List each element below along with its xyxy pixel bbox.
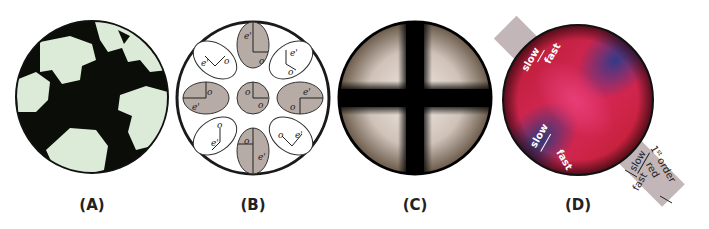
panel-label-c: (C): [385, 196, 445, 214]
panel-c-interference-figure: [335, 18, 495, 178]
label-o-sw: o: [217, 120, 223, 130]
label-e-sw: e': [211, 138, 219, 148]
label-o-east: o: [290, 102, 296, 112]
figure-canvas: e' o o e' o e' e' o o o e' o e' o o e' o…: [0, 0, 709, 229]
label-e-nw: e': [201, 58, 209, 68]
label-e-east: e': [303, 87, 311, 97]
panel-label-d: (D): [548, 196, 608, 214]
panel-a-micrograph: [10, 15, 180, 185]
label-e-west: e': [192, 102, 200, 112]
panel-b-schematic: e' o o e' o e' e' o o o e' o e' o o e' o…: [177, 22, 329, 174]
label-e-south: e': [258, 152, 266, 162]
panel-label-b: (B): [223, 196, 283, 214]
label-o-center-1: o: [245, 87, 251, 97]
label-e-se: e': [295, 130, 303, 140]
label-o-ne: o: [288, 67, 294, 77]
label-o-west: o: [207, 87, 213, 97]
label-e-north: e': [244, 31, 252, 41]
label-e-ne: e': [290, 48, 298, 58]
label-o-nw: o: [224, 56, 230, 66]
label-o-se: o: [278, 130, 284, 140]
label-o-center-2: o: [258, 100, 264, 110]
label-o-south: o: [244, 136, 250, 146]
panel-d-accessory-plate-figure: slow fast slow fast slow 1 st order red …: [487, 6, 685, 207]
panel-label-a: (A): [62, 196, 122, 214]
label-o-north: o: [259, 56, 265, 66]
